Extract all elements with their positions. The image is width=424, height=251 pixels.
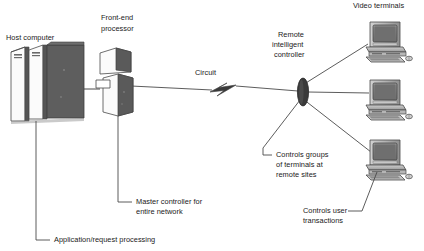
label-video-terminals: Video terminals bbox=[353, 1, 404, 11]
label-host-computer: Host computer bbox=[6, 33, 54, 43]
host-computer-node[interactable] bbox=[11, 42, 84, 124]
network-diagram bbox=[0, 0, 424, 251]
label-front-end-processor-line2: processor bbox=[101, 24, 134, 34]
link-frontend-to-controller-circuit bbox=[131, 83, 298, 96]
callout-leader-master-controller bbox=[118, 116, 132, 202]
callout-master-controller-line2: entire network bbox=[136, 207, 183, 217]
label-front-end-processor-line1: Front-end bbox=[101, 13, 133, 23]
video-terminal-1[interactable] bbox=[366, 22, 412, 62]
label-remote-controller-line2: intelligent bbox=[272, 40, 303, 50]
callout-controls-groups-line2: of terminals at bbox=[276, 160, 323, 170]
front-end-processor-node[interactable] bbox=[96, 48, 133, 116]
label-circuit: Circuit bbox=[195, 68, 216, 78]
diagram-canvas: Host computer Front-end processor Circui… bbox=[0, 0, 424, 251]
video-terminal-2[interactable] bbox=[366, 80, 412, 120]
label-remote-controller-line1: Remote bbox=[278, 30, 304, 40]
callout-master-controller-line1: Master controller for bbox=[136, 197, 202, 207]
callout-leader-application bbox=[36, 121, 50, 240]
video-terminal-3[interactable] bbox=[366, 140, 412, 180]
lightning-bolt-icon bbox=[210, 83, 236, 96]
callout-controls-groups-line1: Controls groups bbox=[276, 150, 328, 160]
callout-controls-user-line2: transactions bbox=[303, 216, 343, 226]
callout-controls-user-line1: Controls user bbox=[303, 206, 347, 216]
label-remote-controller-line3: controller bbox=[274, 50, 305, 60]
link-controller-to-terminal-1 bbox=[301, 44, 368, 86]
callout-controls-groups-line3: remote sites bbox=[276, 170, 317, 180]
link-controller-to-terminal-2 bbox=[308, 92, 369, 93]
callout-leader-controls-groups bbox=[263, 100, 300, 155]
link-controller-to-terminal-3 bbox=[303, 99, 371, 152]
callout-application-request-processing: Application/request processing bbox=[54, 235, 155, 245]
